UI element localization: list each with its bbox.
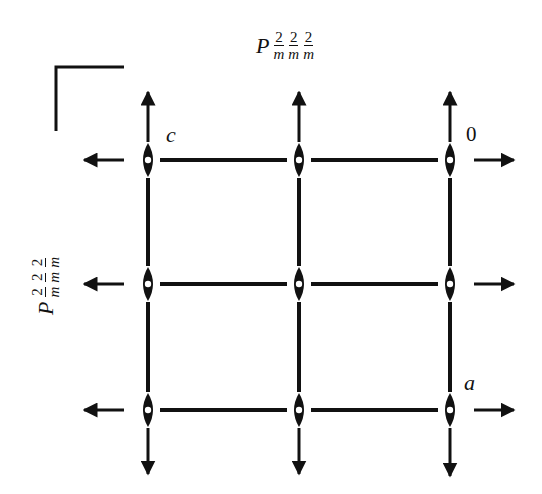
lattice-letter: P (33, 302, 59, 315)
symmetry-fraction: 2m (30, 257, 62, 268)
origin-label: 0 (466, 124, 477, 145)
corner-bracket (56, 67, 124, 131)
right-arrows (474, 160, 514, 410)
symmetry-fraction: 2m (288, 30, 299, 62)
lattice-letter: P (256, 33, 269, 59)
twofold-axis-icon (445, 143, 455, 177)
twofold-axis-icon (143, 393, 153, 427)
twofold-axis-icon (445, 393, 455, 427)
symmetry-fraction: 2m (303, 30, 314, 62)
space-group-symbol-left: P 2m 2m 2m (30, 257, 62, 315)
symmetry-diagram (0, 0, 542, 494)
symmetry-fraction: 2m (30, 272, 62, 283)
twofold-axis-icon (445, 267, 455, 301)
twofold-axis-icon (143, 267, 153, 301)
twofold-axis-icon (143, 143, 153, 177)
symmetry-fraction: 2m (30, 287, 62, 298)
down-arrows (148, 428, 450, 476)
twofold-axis-icon (294, 267, 304, 301)
left-arrows (84, 160, 124, 410)
up-arrows (148, 92, 450, 142)
twofold-axis-icon (294, 143, 304, 177)
axis-label-c: c (166, 124, 176, 146)
twofold-axis-icon (294, 393, 304, 427)
space-group-symbol-top: P 2m 2m 2m (256, 30, 314, 62)
axis-label-a: a (464, 372, 475, 394)
symmetry-fraction: 2m (273, 30, 284, 62)
